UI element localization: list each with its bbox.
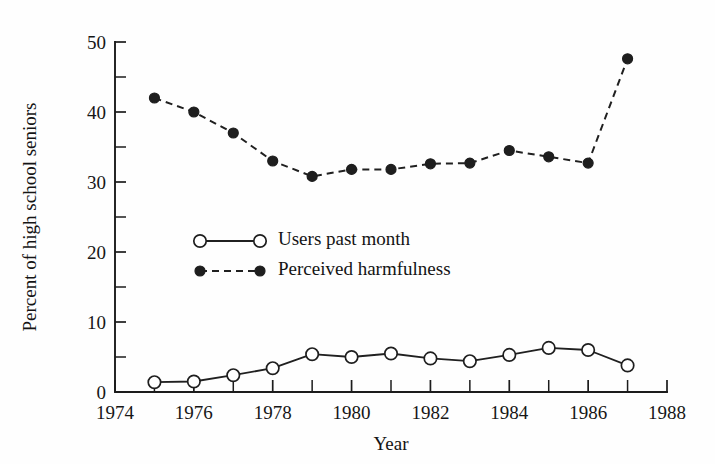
- chart-container: 0102030405019741976197819801982198419861…: [0, 0, 715, 464]
- x-tick-label: 1980: [333, 402, 371, 423]
- data-point: [228, 128, 238, 138]
- data-point: [504, 146, 514, 156]
- data-point: [424, 352, 436, 364]
- data-point: [583, 158, 593, 168]
- data-point: [307, 171, 317, 181]
- legend-label-perceived-harmfulness: Perceived harmfulness: [278, 258, 451, 279]
- y-tick-label: 50: [87, 32, 106, 53]
- x-axis-title: Year: [373, 433, 409, 454]
- legend-label-users-past-month: Users past month: [278, 228, 410, 249]
- y-tick-label: 10: [87, 312, 106, 333]
- x-tick-label: 1984: [490, 402, 529, 423]
- data-point: [268, 156, 278, 166]
- data-point: [582, 344, 594, 356]
- data-point: [465, 158, 475, 168]
- y-tick-label: 20: [87, 242, 106, 263]
- x-tick-label: 1974: [96, 402, 135, 423]
- data-point: [543, 342, 555, 354]
- data-point: [188, 375, 200, 387]
- y-tick-label: 30: [87, 172, 106, 193]
- data-point: [345, 351, 357, 363]
- x-tick-label: 1986: [569, 402, 607, 423]
- data-point: [621, 359, 633, 371]
- x-tick-label: 1978: [254, 402, 292, 423]
- data-point: [386, 164, 396, 174]
- data-point: [503, 349, 515, 361]
- data-point: [267, 362, 279, 374]
- data-point: [623, 54, 633, 64]
- x-tick-label: 1988: [648, 402, 686, 423]
- data-point: [425, 159, 435, 169]
- series-layer: [148, 54, 634, 389]
- series-line-1: [154, 59, 627, 177]
- axes-layer: 0102030405019741976197819801982198419861…: [87, 32, 686, 424]
- data-point: [148, 376, 160, 388]
- y-tick-label: 40: [87, 102, 106, 123]
- line-chart-svg: 0102030405019741976197819801982198419861…: [0, 0, 715, 464]
- legend-layer: Users past monthPerceived harmfulness: [194, 228, 451, 279]
- y-axis-title: Percent of high school seniors: [19, 102, 40, 331]
- data-point: [464, 355, 476, 367]
- x-tick-label: 1976: [175, 402, 213, 423]
- data-point: [189, 107, 199, 117]
- legend-marker-0a: [194, 235, 206, 247]
- legend-marker-1b: [255, 266, 265, 276]
- data-point: [544, 152, 554, 162]
- data-point: [306, 348, 318, 360]
- y-tick-label: 0: [97, 382, 107, 403]
- data-point: [385, 347, 397, 359]
- x-tick-label: 1982: [411, 402, 449, 423]
- legend-marker-0b: [254, 235, 266, 247]
- data-point: [227, 369, 239, 381]
- axis-lines: [115, 42, 667, 392]
- data-point: [347, 164, 357, 174]
- legend-marker-1a: [195, 266, 205, 276]
- data-point: [149, 93, 159, 103]
